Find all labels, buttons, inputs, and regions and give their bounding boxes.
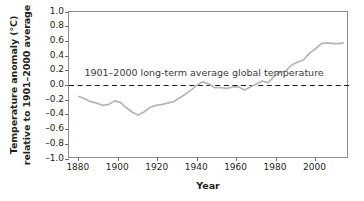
y-tick-label: –0.8	[38, 139, 64, 148]
plot-svg	[69, 12, 349, 159]
y-tick-mark	[65, 12, 69, 13]
y-tick-label: –0.4	[38, 109, 64, 118]
x-tick-label: 1980	[253, 162, 297, 172]
y-tick-mark	[65, 70, 69, 71]
x-tick-label: 1920	[135, 162, 179, 172]
x-tick-label: 1880	[56, 162, 100, 172]
y-tick-mark	[65, 114, 69, 115]
y-tick-mark	[65, 41, 69, 42]
y-tick-label: –0.2	[38, 95, 64, 104]
y-tick-label: –0.6	[38, 124, 64, 133]
x-tick-mark	[236, 157, 237, 161]
x-axis-title: Year	[68, 180, 348, 191]
y-tick-label: 0.0	[38, 80, 64, 89]
y-tick-label: 0.4	[38, 51, 64, 60]
x-tick-mark	[78, 157, 79, 161]
x-tick-label: 1960	[214, 162, 258, 172]
y-tick-label: 0.2	[38, 65, 64, 74]
x-tick-label: 1940	[174, 162, 218, 172]
y-tick-mark	[65, 85, 69, 86]
y-axis-title: Temperature anomaly (°C) relative to 190…	[0, 0, 40, 170]
reference-line-annotation: 1901–2000 long-term average global tempe…	[84, 67, 323, 78]
y-tick-label: 0.6	[38, 36, 64, 45]
x-tick-mark	[197, 157, 198, 161]
x-tick-label: 2000	[292, 162, 336, 172]
y-tick-label: 1.0	[38, 7, 64, 16]
temperature-series-line	[79, 43, 343, 115]
x-axis-tick-labels: 1880190019201940196019802000	[0, 162, 364, 176]
y-tick-mark	[65, 159, 69, 160]
y-axis-title-line2: relative to 1901–2000 average	[20, 5, 33, 165]
y-tick-label: 0.8	[38, 21, 64, 30]
y-axis-title-line1: Temperature anomaly (°C)	[8, 5, 21, 165]
x-tick-mark	[118, 157, 119, 161]
y-tick-mark	[65, 26, 69, 27]
y-tick-mark	[65, 129, 69, 130]
y-tick-mark	[65, 56, 69, 57]
x-tick-mark	[276, 157, 277, 161]
x-tick-label: 1900	[95, 162, 139, 172]
y-tick-mark	[65, 100, 69, 101]
x-tick-mark	[315, 157, 316, 161]
plot-area	[68, 11, 348, 158]
temperature-anomaly-chart: Temperature anomaly (°C) relative to 190…	[0, 0, 364, 201]
y-tick-mark	[65, 144, 69, 145]
x-tick-mark	[157, 157, 158, 161]
